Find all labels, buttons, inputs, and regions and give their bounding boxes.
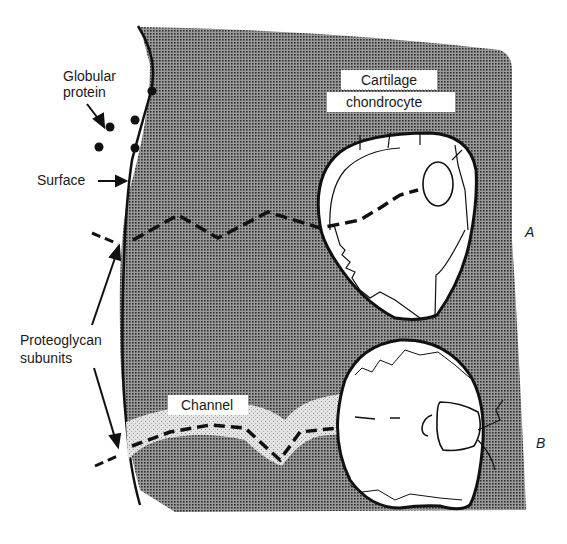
proteoglycan-label-line2: subunits (20, 350, 72, 366)
proteoglycan-subunit-a-outside (92, 233, 118, 244)
proteoglycan-arrow-up (92, 255, 116, 325)
panel-a-label: A (524, 224, 534, 240)
panel-b-label: B (536, 435, 545, 451)
cartilage-label: Cartilage (361, 72, 417, 88)
cartilage-diagram: Globular protein Surface Cartilage chond… (0, 0, 567, 544)
proteoglycan-subunit-b-outside (95, 455, 120, 466)
globular-protein-label-line1: Globular (63, 68, 116, 84)
chondrocyte-label: chondrocyte (346, 94, 422, 110)
surface-label: Surface (37, 172, 85, 188)
globular-protein-label-line2: protein (63, 84, 106, 100)
channel-label: Channel (181, 397, 233, 413)
proteoglycan-arrow-down (94, 368, 115, 438)
proteoglycan-label-line1: Proteoglycan (20, 332, 102, 348)
